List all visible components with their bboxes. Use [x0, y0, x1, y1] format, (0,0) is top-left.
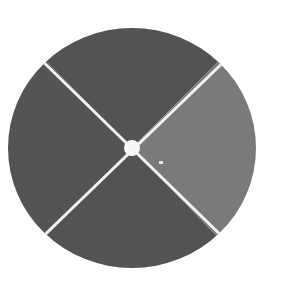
quadrant-top-fill — [30, 0, 235, 45]
center-dot — [124, 140, 140, 156]
quadrant-circle-stimulus — [0, 0, 285, 297]
speck — [159, 161, 163, 164]
